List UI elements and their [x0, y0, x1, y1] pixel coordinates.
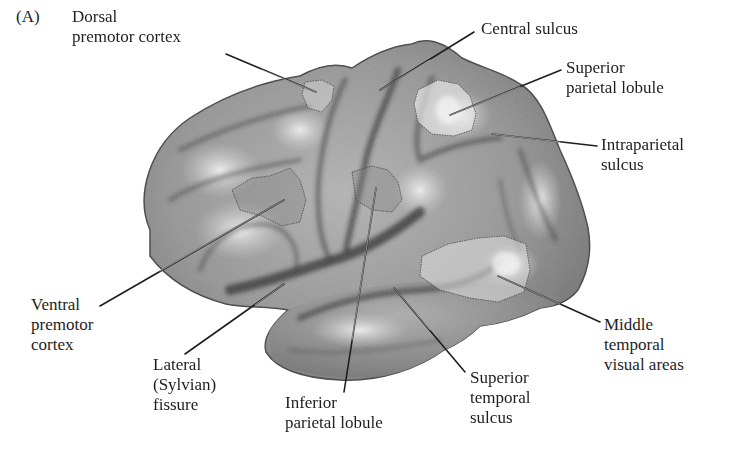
label-inferior-parietal-lobule: Inferior parietal lobule	[285, 393, 383, 433]
label-line: Inferior	[285, 393, 383, 413]
label-line: Superior	[470, 368, 530, 388]
label-line: Intraparietal	[601, 135, 684, 155]
label-line: Ventral	[31, 295, 93, 315]
cortex-surface	[130, 30, 600, 390]
label-line: Lateral	[153, 355, 216, 375]
label-line: parietal lobule	[566, 78, 664, 98]
label-dorsal-premotor-cortex: Dorsal premotor cortex	[72, 7, 181, 47]
label-line: Superior	[566, 58, 664, 78]
label-line: sulcus	[601, 155, 684, 175]
label-lateral-sylvian-fissure: Lateral (Sylvian) fissure	[153, 355, 216, 415]
label-line: fissure	[153, 395, 216, 415]
label-central-sulcus: Central sulcus	[481, 19, 578, 39]
label-line: premotor	[31, 315, 93, 335]
label-line: Middle	[604, 315, 684, 335]
label-line: parietal lobule	[285, 413, 383, 433]
label-superior-parietal-lobule: Superior parietal lobule	[566, 58, 664, 98]
label-line: visual areas	[604, 355, 684, 375]
panel-label: (A)	[16, 7, 40, 27]
label-line: premotor cortex	[72, 27, 181, 47]
label-line: (Sylvian)	[153, 375, 216, 395]
label-line: Central sulcus	[481, 19, 578, 39]
label-line: temporal	[470, 388, 530, 408]
brain-figure: (A) Dorsal premotor cortex Central sulcu…	[0, 0, 736, 452]
label-line: temporal	[604, 335, 684, 355]
label-ventral-premotor-cortex: Ventral premotor cortex	[31, 295, 93, 355]
label-line: sulcus	[470, 408, 530, 428]
label-line: Dorsal	[72, 7, 181, 27]
label-intraparietal-sulcus: Intraparietal sulcus	[601, 135, 684, 175]
label-middle-temporal-visual-areas: Middle temporal visual areas	[604, 315, 684, 375]
label-line: cortex	[31, 335, 93, 355]
label-superior-temporal-sulcus: Superior temporal sulcus	[470, 368, 530, 428]
